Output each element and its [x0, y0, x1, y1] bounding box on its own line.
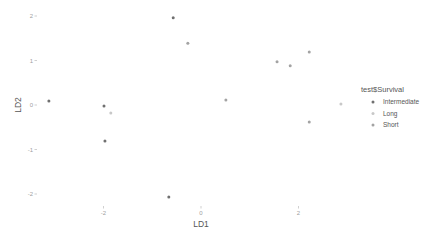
legend-label-long: Long [383, 110, 398, 118]
x-axis-title: LD1 [193, 219, 209, 229]
data-point-intermediate [47, 99, 50, 102]
data-point-short [289, 64, 292, 67]
x-tick-label: 0 [199, 210, 203, 216]
x-tick-label: -2 [101, 210, 107, 216]
y-tick-label: 2 [30, 13, 34, 19]
data-point-intermediate [102, 104, 105, 107]
legend: test$Survival IntermediateLongShort [361, 85, 420, 128]
scatter-plot: -2-1012 -202 LD1 LD2 test$Survival Inter… [0, 0, 437, 238]
data-points [47, 16, 342, 198]
data-point-short [186, 42, 189, 45]
x-axis: -202 [101, 206, 301, 216]
data-point-short [308, 51, 311, 54]
x-tick-label: 2 [297, 210, 301, 216]
data-point-intermediate [172, 16, 175, 19]
y-axis-title: LD2 [13, 97, 23, 113]
y-tick-label: -1 [28, 147, 34, 153]
y-tick-label: 0 [30, 102, 34, 108]
data-point-intermediate [167, 196, 170, 199]
y-tick-label: -2 [28, 191, 34, 197]
legend-key-long [372, 112, 375, 115]
legend-title: test$Survival [361, 85, 404, 94]
data-point-short [224, 99, 227, 102]
legend-key-short [372, 124, 375, 127]
data-point-short [308, 120, 311, 123]
legend-label-short: Short [383, 121, 399, 128]
y-tick-label: 1 [30, 58, 34, 64]
data-point-intermediate [103, 140, 106, 143]
data-point-long [109, 112, 112, 115]
data-point-long [339, 103, 342, 106]
data-point-short [276, 60, 279, 63]
legend-label-intermediate: Intermediate [383, 98, 420, 105]
y-axis: -2-1012 [28, 13, 37, 197]
legend-key-intermediate [372, 101, 375, 104]
